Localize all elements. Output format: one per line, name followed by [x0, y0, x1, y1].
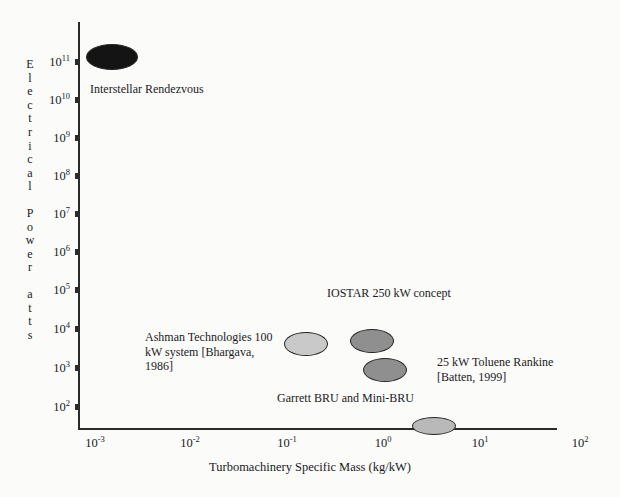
- x-axis-tick-label: 102: [572, 437, 589, 450]
- x-axis-tick-label: 10-2: [180, 437, 200, 450]
- y-axis-title-char: o: [22, 221, 38, 235]
- y-axis-title-char: r: [22, 261, 38, 275]
- y-axis-tick: [75, 287, 79, 293]
- y-axis-title-char: c: [22, 99, 38, 113]
- y-axis-title-char: l: [22, 180, 38, 194]
- x-axis-line: [78, 428, 557, 430]
- y-axis-tick-label: 109: [34, 132, 70, 145]
- ashman-technologies-label: Ashman Technologies 100 kW system [Bharg…: [145, 330, 280, 374]
- y-axis-title-char: e: [22, 85, 38, 99]
- interstellar-rendezvous-label: Interstellar Rendezvous: [90, 82, 270, 97]
- y-axis-title-char: e: [22, 248, 38, 262]
- y-axis-tick-label: 103: [34, 362, 70, 375]
- x-axis-tick-label: 100: [375, 437, 392, 450]
- y-axis-title: ElectricalPoweratts: [22, 58, 38, 342]
- x-axis-title: Turbomachinery Specific Mass (kg/kW): [0, 460, 620, 475]
- toluene-rankine-label: 25 kW Toluene Rankine [Batten, 1999]: [437, 355, 577, 384]
- y-axis-title-char: E: [22, 58, 38, 72]
- y-axis-title-char: t: [22, 112, 38, 126]
- y-axis-tick-label: 105: [34, 284, 70, 297]
- y-axis-tick-label: 108: [34, 170, 70, 183]
- y-axis-tick: [75, 97, 79, 103]
- chart-figure: 10111010109108107106105104103102 10-310-…: [0, 0, 620, 497]
- interstellar-rendezvous-bubble: [86, 44, 138, 70]
- y-axis-title-char: a: [22, 167, 38, 181]
- y-axis-tick: [75, 326, 79, 332]
- y-axis-tick-label: 106: [34, 246, 70, 259]
- y-axis-tick-label: 1010: [34, 94, 70, 107]
- ashman-technologies-bubble: [284, 332, 328, 356]
- y-axis-title-char: r: [22, 126, 38, 140]
- y-axis-title-gap: [22, 194, 38, 207]
- y-axis-tick: [75, 211, 79, 217]
- y-axis-tick-label: 102: [34, 401, 70, 414]
- y-axis-tick: [75, 135, 79, 141]
- y-axis-tick: [75, 59, 79, 65]
- toluene-rankine-bubble: [412, 417, 456, 435]
- y-axis-title-char: i: [22, 140, 38, 154]
- y-axis-title-char: a: [22, 288, 38, 302]
- y-axis-tick: [75, 249, 79, 255]
- y-axis-title-char: w: [22, 234, 38, 248]
- y-axis-tick-label: 107: [34, 208, 70, 221]
- iostar-concept-label: IOSTAR 250 kW concept: [327, 286, 497, 301]
- y-axis-tick: [75, 404, 79, 410]
- x-axis-tick-label: 10-3: [85, 437, 105, 450]
- y-axis-tick: [75, 173, 79, 179]
- y-axis-title-char: c: [22, 153, 38, 167]
- y-axis-tick-label: 1011: [34, 56, 70, 69]
- x-axis-tick-label: 10-1: [277, 437, 297, 450]
- x-axis-tick-label: 101: [472, 437, 489, 450]
- y-axis-title-char: t: [22, 315, 38, 329]
- y-axis-title-char: l: [22, 72, 38, 86]
- iostar-concept-bubble: [350, 329, 394, 353]
- y-axis-title-char: t: [22, 302, 38, 316]
- y-axis-title-char: s: [22, 329, 38, 343]
- y-axis-tick-label: 104: [34, 323, 70, 336]
- garrett-bru-bubble: [363, 358, 407, 382]
- y-axis-tick: [75, 365, 79, 371]
- y-axis-title-gap: [22, 275, 38, 288]
- garrett-bru-label: Garrett BRU and Mini-BRU: [277, 391, 457, 406]
- y-axis-title-char: P: [22, 207, 38, 221]
